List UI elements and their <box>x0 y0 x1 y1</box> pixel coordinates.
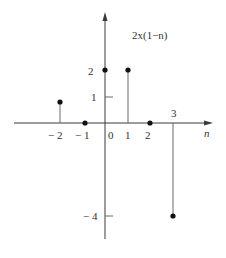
stem-plot: 2x(1−n) 2 1 − 4 − 2 − 1 0 1 2 3 n <box>0 0 226 258</box>
y-tick-label-1: 1 <box>91 91 97 103</box>
x-tick-label-3: 3 <box>171 107 177 119</box>
point-n-minus1 <box>82 120 87 125</box>
point-n-0 <box>102 67 107 72</box>
x-axis-arrow-icon <box>204 121 213 126</box>
y-axis-arrow-icon <box>103 12 108 21</box>
point-n-1 <box>125 67 130 72</box>
y-axis <box>103 12 108 239</box>
x-tick-label-0: 0 <box>108 129 114 141</box>
chart-title: 2x(1−n) <box>132 29 168 42</box>
stems <box>60 70 173 216</box>
point-n-2 <box>147 120 152 125</box>
x-axis <box>14 121 213 126</box>
x-tick-label-minus1: − 1 <box>75 129 89 141</box>
y-tick-label-minus4: − 4 <box>83 210 98 222</box>
point-n-3 <box>170 213 175 218</box>
x-tick-label-1: 1 <box>125 129 131 141</box>
x-tick-label-minus2: − 2 <box>48 129 62 141</box>
data-points <box>57 67 175 218</box>
x-axis-label: n <box>204 127 210 139</box>
y-tick-label-2: 2 <box>88 65 94 77</box>
point-n-minus2 <box>57 99 62 104</box>
x-tick-label-2: 2 <box>145 129 151 141</box>
